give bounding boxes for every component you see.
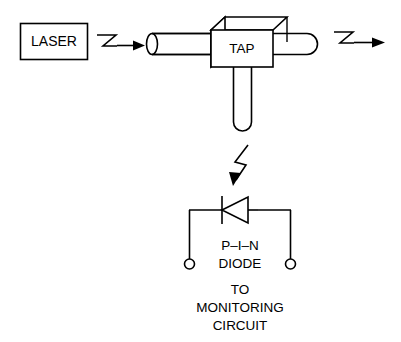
output-fiber-tube xyxy=(273,34,318,55)
input-zigzag-icon xyxy=(97,35,117,46)
fiber-tap-diagram: LASER xyxy=(0,0,401,342)
diode-label-line2: DIODE xyxy=(219,256,262,271)
monitoring-label-line2: MONITORING xyxy=(196,300,284,315)
tap-label: TAP xyxy=(229,41,254,56)
output-beam-arrow xyxy=(334,32,385,48)
terminal-left-icon xyxy=(185,259,195,269)
diagram-canvas: LASER xyxy=(0,0,401,342)
diode-label-line1: P–I–N xyxy=(221,238,259,253)
input-fiber-tube xyxy=(147,34,212,55)
output-fiber-body xyxy=(273,34,318,55)
terminal-right-icon xyxy=(286,259,296,269)
monitoring-label-line3: CIRCUIT xyxy=(213,318,268,333)
monitoring-label-line1: TO xyxy=(231,282,250,297)
tapped-fiber-body xyxy=(234,67,252,131)
tapped-fiber-tube xyxy=(234,67,252,131)
laser-source-group: LASER xyxy=(21,24,88,60)
laser-label: LASER xyxy=(31,33,77,49)
tapped-arrowhead-icon xyxy=(229,172,241,186)
input-arrowhead-icon xyxy=(133,41,145,51)
output-zigzag-icon xyxy=(334,32,354,43)
input-fiber-body xyxy=(152,34,211,55)
output-arrowhead-icon xyxy=(372,38,385,48)
diode-caption-group: P–I–N DIODE xyxy=(219,238,262,271)
input-fiber-endcap xyxy=(147,34,158,55)
monitoring-caption-group: TO MONITORING CIRCUIT xyxy=(196,282,284,333)
input-beam-arrow xyxy=(97,35,145,51)
tapped-beam-arrow xyxy=(229,145,248,186)
diode-triangle-icon xyxy=(222,197,248,223)
